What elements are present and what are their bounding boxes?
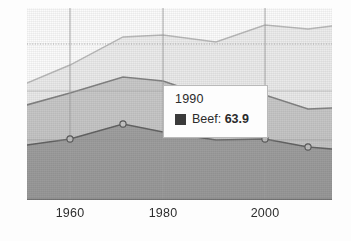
data-point-marker[interactable] bbox=[67, 136, 73, 142]
tooltip-value: 63.9 bbox=[225, 112, 249, 126]
series-color-swatch-icon bbox=[175, 114, 186, 125]
x-axis-labels: 1960 1980 2000 bbox=[0, 206, 351, 228]
stacked-area-chart: 1990 Beef: 63.9 1960 1980 2000 bbox=[0, 0, 351, 241]
tooltip-series-row: Beef: 63.9 bbox=[175, 112, 267, 126]
tooltip-series-value: Beef: 63.9 bbox=[192, 112, 249, 126]
x-tick-label-1980: 1980 bbox=[149, 206, 178, 220]
data-point-marker[interactable] bbox=[120, 121, 126, 127]
chart-tooltip: 1990 Beef: 63.9 bbox=[163, 85, 268, 138]
tooltip-series-label: Beef: bbox=[192, 112, 221, 126]
tooltip-title: 1990 bbox=[175, 92, 267, 106]
x-tick-label-2000: 2000 bbox=[251, 206, 280, 220]
data-point-marker[interactable] bbox=[305, 144, 311, 150]
x-tick-label-1960: 1960 bbox=[56, 206, 85, 220]
